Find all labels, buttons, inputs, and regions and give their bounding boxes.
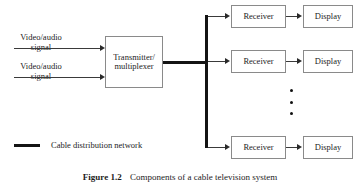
branch-1-arrow-icon bbox=[225, 13, 230, 19]
input-wire-1 bbox=[14, 48, 102, 49]
branch-2-arrow-icon bbox=[225, 58, 230, 64]
branch-3-display-arrow-icon bbox=[297, 144, 302, 150]
receiver-box-3: Receiver bbox=[231, 136, 286, 159]
branch-1-display-arrow-icon bbox=[297, 13, 302, 19]
receiver-box-2: Receiver bbox=[231, 50, 286, 73]
transmitter-label-line2: multiplexer bbox=[114, 61, 153, 71]
input-label-2: Video/audio signal bbox=[4, 62, 78, 81]
input-label-2-line1: Video/audio bbox=[20, 61, 62, 71]
display-box-1: Display bbox=[303, 5, 353, 28]
input-label-2-line2: signal bbox=[31, 71, 51, 81]
cable-trunk-vertical bbox=[205, 15, 208, 148]
branch-3-arrow-icon bbox=[225, 144, 230, 150]
receiver-box-1: Receiver bbox=[231, 5, 286, 28]
display-box-3: Display bbox=[303, 136, 353, 159]
display-3-label: Display bbox=[315, 143, 341, 152]
legend-label: Cable distribution network bbox=[51, 140, 142, 150]
display-2-label: Display bbox=[315, 57, 341, 66]
receiver-1-label: Receiver bbox=[243, 12, 273, 21]
input-label-1-line1: Video/audio bbox=[20, 32, 62, 42]
input-label-1: Video/audio signal bbox=[4, 33, 78, 52]
figure-caption-text: Components of a cable television system bbox=[130, 172, 277, 182]
figure-caption: Figure 1.2 Components of a cable televis… bbox=[0, 172, 360, 182]
display-box-2: Display bbox=[303, 50, 353, 73]
cable-trunk-horizontal bbox=[163, 61, 208, 64]
legend: Cable distribution network bbox=[14, 140, 142, 150]
display-1-label: Display bbox=[315, 12, 341, 21]
figure-caption-label: Figure 1.2 bbox=[83, 172, 122, 182]
receiver-3-label: Receiver bbox=[243, 143, 273, 152]
input-label-1-line2: signal bbox=[31, 42, 51, 52]
ellipsis-dot bbox=[290, 89, 293, 92]
figure-cable-television-system: Video/audio signal Video/audio signal Tr… bbox=[0, 0, 360, 184]
input-wire-2 bbox=[14, 77, 102, 78]
branch-2-display-arrow-icon bbox=[297, 58, 302, 64]
receiver-2-label: Receiver bbox=[243, 57, 273, 66]
ellipsis-dot bbox=[290, 101, 293, 104]
vertical-ellipsis-icon bbox=[289, 89, 293, 115]
transmitter-multiplexer-box: Transmitter/ multiplexer bbox=[105, 36, 163, 88]
ellipsis-dot bbox=[290, 112, 293, 115]
legend-cable-line-icon bbox=[14, 144, 40, 147]
